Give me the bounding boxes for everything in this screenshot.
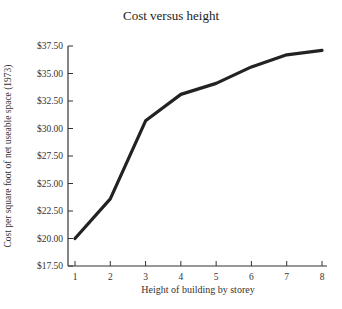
x-tick-label: 5	[214, 272, 219, 282]
x-tick-label: 7	[284, 272, 289, 282]
x-axis-ticks: 12345678	[73, 261, 325, 282]
x-tick-label: 2	[108, 272, 113, 282]
axes	[68, 46, 327, 266]
y-tick-label: $32.50	[37, 96, 63, 106]
x-tick-label: 6	[249, 272, 254, 282]
x-tick-label: 4	[178, 272, 183, 282]
y-tick-label: $35.00	[37, 69, 63, 79]
y-tick-label: $27.50	[37, 151, 63, 161]
y-tick-label: $22.50	[37, 206, 63, 216]
line-chart: $17.50$20.00$22.50$25.00$27.50$30.00$32.…	[0, 0, 342, 309]
x-tick-label: 3	[143, 272, 148, 282]
x-tick-label: 8	[320, 272, 325, 282]
y-tick-label: $20.00	[37, 234, 63, 244]
y-tick-label: $30.00	[37, 124, 63, 134]
y-tick-label: $37.50	[37, 41, 63, 51]
cost-line	[75, 50, 322, 238]
y-tick-label: $17.50	[37, 261, 63, 271]
x-tick-label: 1	[73, 272, 78, 282]
y-tick-label: $25.00	[37, 179, 63, 189]
